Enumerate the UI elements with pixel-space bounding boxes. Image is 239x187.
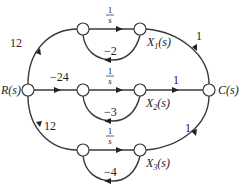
arrow-icon [116, 87, 123, 93]
node-top-left [77, 23, 89, 35]
label-bottom-input-gain: 12 [44, 119, 56, 133]
label-middle-output-gain: 1 [173, 73, 179, 87]
branch-middle: −24 1 s −3 1 X2(s) [34, 66, 203, 124]
label-x2: X2(s) [145, 96, 170, 112]
arrow-icon [36, 121, 42, 127]
label-top-den: s [108, 15, 112, 25]
node-input-r [22, 84, 34, 96]
label-output-c: C(s) [218, 83, 239, 97]
label-top-input-gain: 12 [10, 36, 22, 50]
node-x3 [134, 144, 146, 156]
label-middle-num: 1 [108, 66, 113, 76]
label-middle-feedback: −3 [104, 105, 117, 119]
label-middle-input-gain: −24 [50, 70, 69, 84]
label-top-feedback: −2 [104, 44, 117, 58]
node-x2 [134, 84, 146, 96]
node-bottom-left [77, 144, 89, 156]
branch-bottom: 12 1 s −4 1 X3(s) [28, 96, 209, 184]
node-output-c [203, 84, 215, 96]
label-bottom-num: 1 [108, 126, 113, 136]
label-bottom-feedback: −4 [104, 165, 117, 179]
arrow-icon [116, 26, 123, 32]
label-top-output-gain: 1 [196, 29, 202, 43]
label-bottom-den: s [108, 136, 112, 146]
label-bottom-output-gain: 1 [185, 121, 191, 135]
label-x1: X1(s) [146, 35, 171, 51]
label-top-num: 1 [108, 5, 113, 15]
label-input-r: R(s) [0, 83, 21, 97]
label-x3: X3(s) [145, 156, 170, 172]
arrow-icon [191, 129, 197, 136]
arrow-icon [116, 147, 123, 153]
node-middle-left [77, 84, 89, 96]
signal-flow-graph: 12 1 s −2 1 X1(s) −24 1 s −3 1 X2(s) [0, 0, 239, 187]
node-x1 [134, 23, 146, 35]
arrow-icon [172, 87, 179, 93]
arrow-icon [54, 87, 61, 93]
label-middle-den: s [108, 76, 112, 86]
